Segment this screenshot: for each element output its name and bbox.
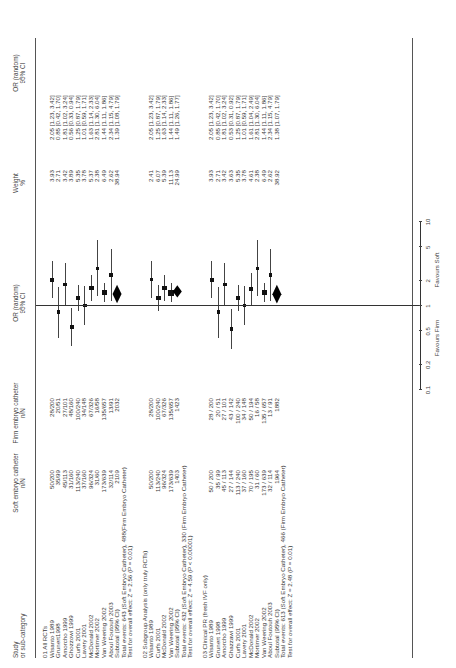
forest-plot: Study or sub-category Soft embryo cathet…: [0, 0, 456, 668]
header-or-plot: OR (random) 95% CI: [12, 268, 26, 338]
subtotal-firm: 1423: [174, 398, 181, 446]
header-firm-line1: Firm embryo catheter: [12, 373, 19, 453]
axis-tick-label: 0.5: [425, 321, 432, 341]
no-effect-line: [36, 305, 420, 306]
header-study-line1: Study: [12, 614, 19, 658]
axis-tick: [419, 246, 422, 247]
point-estimate-square: [96, 267, 99, 270]
header-or-plot-line1: OR (random): [12, 268, 19, 338]
point-estimate-square: [223, 283, 227, 287]
subtotal-or: 1.49 [1.26, 1.77]: [174, 95, 181, 140]
header-soft-line1: Soft embryo catheter: [12, 443, 19, 523]
subtotal-weight: 38.94: [114, 170, 121, 198]
axis-tick: [419, 389, 422, 390]
point-estimate-square: [269, 273, 272, 276]
point-estimate-square: [262, 290, 267, 295]
point-estimate-square: [50, 278, 54, 282]
point-estimate-square: [210, 278, 214, 282]
overall-effect-test: Test for overall effect: Z = 2.48 (P = 0…: [287, 546, 294, 658]
axis-tick: [419, 330, 422, 331]
header-weight: Weight %: [12, 163, 26, 203]
header-study: Study or sub-category: [12, 614, 26, 658]
point-estimate-square: [102, 290, 107, 295]
point-estimate-square: [168, 290, 174, 296]
overall-effect-test: Test for overall effect: Z = 4.59 (P < 0…: [187, 535, 194, 658]
subtotal-weight: 24.99: [174, 170, 181, 198]
axis-tick-label: 10: [425, 212, 432, 232]
bottom-rule: [412, 38, 413, 658]
point-estimate-square: [156, 296, 161, 301]
axis-tick-label: 0.2: [425, 355, 432, 375]
favours-firm-label: Favours Firm: [434, 308, 441, 368]
axis-tick: [419, 305, 422, 306]
overall-effect-test: Test for overall effect: Z = 2.56 (P = 0…: [127, 546, 134, 658]
header-firm-line2: n/N: [19, 373, 26, 453]
point-estimate-square: [57, 310, 60, 313]
header-or-text-line1: OR (random): [12, 38, 19, 108]
header-soft: Soft embryo catheter n/N: [12, 443, 26, 523]
point-estimate-square: [217, 310, 220, 313]
point-estimate-square: [89, 286, 93, 290]
axis-tick: [419, 221, 422, 222]
point-estimate-square: [256, 267, 259, 270]
point-estimate-square: [63, 283, 67, 287]
axis-tick-label: 1: [425, 296, 432, 316]
header-soft-line2: n/N: [19, 443, 26, 523]
point-estimate-square: [230, 327, 234, 331]
header-weight-line2: %: [19, 163, 26, 203]
header-or-text-line2: 95% CI: [19, 38, 26, 108]
axis-tick-label: 0.1: [425, 380, 432, 400]
subtotal-or: 1.39 [1.08, 1.79]: [114, 95, 121, 140]
axis-tick: [419, 280, 422, 281]
axis-tick-label: 5: [425, 237, 432, 257]
axis-tick-label: 2: [425, 271, 432, 291]
point-estimate-square: [76, 296, 80, 300]
point-estimate-square: [150, 278, 153, 281]
header-or-text: OR (random) 95% CI: [12, 38, 26, 108]
favours-soft-label: Favours Soft: [434, 240, 441, 300]
header-firm: Firm embryo catheter n/N: [12, 373, 26, 453]
point-estimate-square: [70, 325, 74, 329]
header-study-line2: or sub-category: [19, 614, 26, 658]
top-rule: [35, 38, 36, 658]
subtotal-firm: 2032: [114, 398, 121, 446]
point-estimate-square: [236, 296, 240, 300]
header-weight-line1: Weight: [12, 163, 19, 203]
point-estimate-square: [249, 287, 253, 291]
header-or-plot-line2: 95% CI: [19, 268, 26, 338]
point-estimate-square: [162, 286, 166, 290]
axis-tick: [419, 364, 422, 365]
subtotal-weight: 38.92: [274, 170, 281, 198]
subtotal-or: 1.38 [1.07, 1.79]: [274, 95, 281, 140]
subtotal-firm: 1882: [274, 398, 281, 446]
point-estimate-square: [109, 273, 112, 276]
